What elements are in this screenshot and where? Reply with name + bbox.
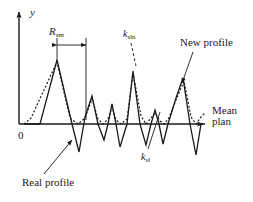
- new-profile-leader-arrow: [182, 52, 193, 83]
- mean-plan-label: Mean plan: [212, 105, 237, 127]
- rsm-label: Rsm: [49, 26, 64, 37]
- real-profile-curve: [24, 60, 205, 155]
- new-profile-label: New profile: [180, 37, 233, 48]
- real-profile-label: Real profile: [22, 177, 74, 188]
- ksln-subscript: sln: [127, 33, 135, 41]
- rsm-symbol: R: [49, 25, 56, 37]
- real-profile-leader-arrow: [44, 140, 72, 174]
- ksln-label: ksln: [123, 29, 136, 39]
- ksln-leader-line: [131, 43, 136, 66]
- rsm-subscript: sm: [56, 31, 64, 39]
- ksl-subscript: sl: [145, 156, 150, 164]
- ksl-label: ksl: [141, 152, 150, 162]
- y-axis-label: y: [30, 7, 35, 18]
- roughness-profile-figure: y 0 Rsm ksln ksl New profile Real profil…: [0, 0, 253, 202]
- origin-label: 0: [18, 130, 24, 141]
- mean-plan-label-line2: plan: [212, 116, 237, 127]
